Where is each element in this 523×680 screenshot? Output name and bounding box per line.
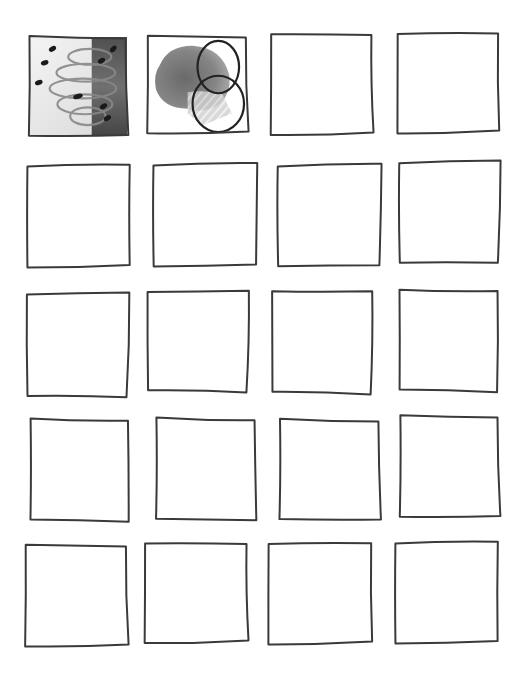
sketch-cell-r5c4[interactable] — [397, 542, 497, 642]
sketch-cell-r2c3[interactable] — [279, 165, 380, 265]
cell-border-outline — [400, 162, 499, 262]
sketch-cell-r5c2[interactable] — [146, 543, 247, 642]
cell-border-outline — [400, 416, 499, 517]
cell-border-outline — [399, 33, 498, 132]
cell-border-outline — [279, 420, 380, 520]
sketch-cell-r5c1[interactable] — [26, 545, 127, 646]
sketch-cell-r2c1[interactable] — [29, 165, 129, 266]
cell-border-outline — [155, 419, 256, 520]
sketch-cell-r2c4[interactable] — [400, 162, 499, 262]
sketch-cell-r1c4[interactable] — [399, 33, 498, 132]
cell-border-outline — [147, 292, 248, 391]
cell-border-outline — [397, 542, 497, 642]
sketch-cell-r1c2[interactable] — [148, 36, 247, 133]
cell-border-outline — [148, 36, 247, 133]
cell-border-outline — [29, 37, 127, 136]
sketch-cell-r3c3[interactable] — [271, 292, 372, 393]
cell-border-outline — [26, 545, 127, 646]
sketch-cell-r2c2[interactable] — [155, 164, 256, 265]
sketch-cell-r3c1[interactable] — [27, 294, 128, 396]
cell-border-outline — [29, 165, 129, 266]
cell-border-outline — [155, 164, 256, 265]
sketch-cell-r3c2[interactable] — [147, 292, 248, 391]
sketch-cell-r1c3[interactable] — [272, 34, 372, 134]
cell-border-outline — [271, 292, 372, 393]
cell-border-outline — [272, 34, 372, 134]
cell-border-outline — [29, 420, 129, 521]
sketch-cell-r4c4[interactable] — [400, 416, 499, 517]
sketch-cell-r1c1[interactable] — [29, 37, 127, 136]
cell-border-outline — [279, 165, 380, 265]
cell-border-outline — [27, 294, 128, 396]
sketch-cell-r3c4[interactable] — [398, 291, 498, 391]
sketch-cell-r4c3[interactable] — [279, 420, 380, 520]
sketch-cell-r4c2[interactable] — [155, 419, 256, 520]
sketch-cell-r4c1[interactable] — [29, 420, 129, 521]
cell-border-outline — [270, 543, 371, 643]
sketch-cell-r5c3[interactable] — [270, 543, 371, 643]
cell-border-outline — [398, 291, 498, 391]
cell-border-outline — [146, 543, 247, 642]
